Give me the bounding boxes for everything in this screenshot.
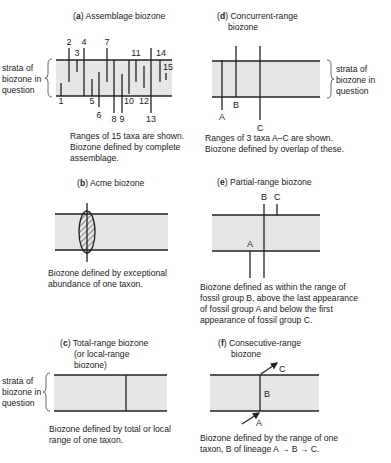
svg-text:biozone in: biozone in (2, 74, 41, 84)
taxon-label: 9 (119, 114, 124, 124)
svg-text:biozone: biozone (228, 22, 258, 32)
panel-b-acme-biozone: (b) Acme biozone Biozone defined by exce… (48, 178, 168, 289)
panel-d-concurrent-range-biozone: (d) Concurrent-range biozone A B C strat… (205, 11, 375, 154)
svg-text:biozone in: biozone in (2, 387, 41, 397)
acme-abundance-hatch (79, 211, 95, 253)
svg-text:question: question (2, 398, 35, 408)
svg-text:(or local-range: (or local-range (74, 349, 130, 359)
taxon-label: A (256, 418, 262, 428)
arrow-b-to-c-icon (261, 363, 277, 374)
brace-icon (45, 59, 52, 97)
taxon-label: 3 (74, 48, 79, 58)
panel-f-consecutive-range-biozone: (f) Consecutive-range biozone A B C Bioz… (200, 338, 338, 454)
taxon-label: B (264, 389, 270, 399)
svg-text:biozone: biozone (231, 349, 261, 359)
taxon-label: 6 (96, 110, 101, 120)
strata-label-a: strata of biozone in question (2, 59, 52, 97)
biozone-diagram: (a) Assemblage biozone strata of biozone… (0, 0, 391, 463)
svg-text:range of one taxon.: range of one taxon. (49, 435, 123, 445)
svg-text:biozone): biozone) (74, 360, 107, 370)
svg-text:fossil group B, above the last: fossil group B, above the last appearanc… (200, 293, 358, 303)
panel-a-assemblage-biozone: (a) Assemblage biozone strata of biozone… (2, 11, 184, 163)
taxon-label: B (261, 192, 267, 202)
taxon-label: C (257, 123, 264, 133)
taxon-label: 13 (146, 114, 156, 124)
taxon-label: 1 (58, 96, 63, 106)
taxon-label: A (219, 112, 225, 122)
svg-text:strata of: strata of (2, 63, 34, 73)
taxon-label: C (279, 364, 286, 374)
svg-text:strata of: strata of (2, 376, 34, 386)
svg-text:Biozone defined by total or lo: Biozone defined by total or local (49, 424, 171, 434)
biozone-band-e (212, 215, 320, 251)
svg-text:abundance of one taxon.: abundance of one taxon. (48, 279, 143, 289)
panel-c-total-range-biozone: (c) Total-range biozone (or local-range … (2, 338, 171, 445)
svg-text:question: question (336, 86, 369, 96)
svg-text:Biozone defined by exceptional: Biozone defined by exceptional (48, 268, 167, 278)
panel-e-title: (e) Partial-range biozone (217, 177, 312, 187)
panel-a-caption-line: Biozone defined by complete (70, 142, 181, 152)
taxon-label: C (274, 192, 281, 202)
svg-text:Biozone defined as within the: Biozone defined as within the range of (200, 282, 346, 292)
panel-d-title: (d) Concurrent-range (217, 11, 298, 21)
biozone-band-d (212, 61, 320, 97)
panel-a-title: (a) Assemblage biozone (73, 11, 165, 21)
svg-text:biozone in: biozone in (336, 75, 375, 85)
svg-text:Ranges of 3 taxa A–C are shown: Ranges of 3 taxa A–C are shown. (205, 133, 333, 143)
brace-icon (327, 60, 334, 98)
svg-text:Biozone defined by overlap of: Biozone defined by overlap of these. (205, 144, 344, 154)
svg-text:taxon, B of lineage A → B → C.: taxon, B of lineage A → B → C. (200, 444, 319, 454)
taxon-label: 10 (124, 96, 134, 106)
panel-a-caption-line: assemblage. (70, 153, 119, 163)
taxon-label: 7 (104, 37, 109, 47)
panel-f-title: (f) Consecutive-range (218, 338, 301, 348)
panel-a-caption-line: Ranges of 15 taxa are shown. (70, 131, 184, 141)
panel-c-title: (c) Total-range biozone (60, 338, 148, 348)
taxon-label: 11 (131, 48, 140, 58)
taxon-label: A (247, 239, 253, 249)
brace-icon (43, 373, 50, 411)
taxon-label: 5 (89, 96, 94, 106)
taxon-label: 12 (139, 96, 149, 106)
svg-text:Biozone defined by the range o: Biozone defined by the range of one (200, 433, 338, 443)
svg-text:appearance of fossil group C.: appearance of fossil group C. (200, 315, 312, 325)
svg-text:of fossil group A and below th: of fossil group A and below the first (200, 304, 333, 314)
biozone-band-c (54, 375, 167, 411)
taxon-label: 14 (156, 48, 166, 58)
taxon-label: 15 (163, 62, 173, 72)
taxon-label: 4 (81, 37, 86, 47)
svg-text:question: question (2, 85, 35, 95)
taxon-label: 8 (111, 114, 116, 124)
panel-e-partial-range-biozone: (e) Partial-range biozone A B C Biozone … (200, 177, 358, 325)
taxon-label: B (233, 100, 239, 110)
svg-text:strata of: strata of (336, 64, 368, 74)
biozone-band-b (55, 214, 168, 250)
panel-b-title: (b) Acme biozone (77, 178, 145, 188)
taxon-label: 2 (66, 37, 71, 47)
